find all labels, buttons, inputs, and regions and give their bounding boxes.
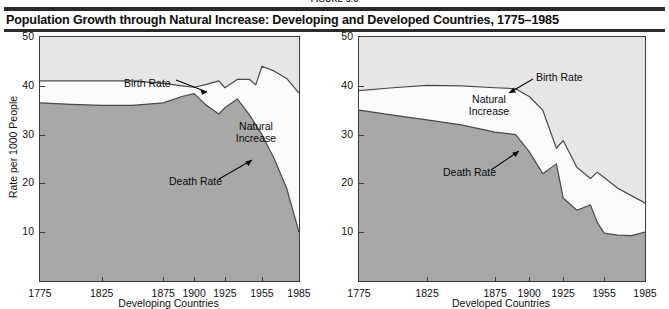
y-tick-label: 50 bbox=[8, 31, 34, 41]
x-tick-mark bbox=[102, 277, 103, 282]
figure-page: FIGURE 3.6 Population Growth through Nat… bbox=[0, 0, 669, 309]
natural-increase-line2: Increase bbox=[236, 132, 276, 144]
x-tick-mark bbox=[163, 277, 164, 282]
natural-increase-line1: Natural bbox=[239, 120, 273, 132]
plot-svg-developing bbox=[40, 37, 299, 281]
x-tick-mark bbox=[262, 277, 263, 282]
x-axis-title-developing: Developing Countries bbox=[39, 297, 298, 309]
x-tick-mark bbox=[563, 277, 564, 282]
y-tick-mark bbox=[40, 183, 45, 184]
y-tick-mark bbox=[40, 135, 45, 136]
chart-panel-developed: 1020304050 1775182518751900192519551985 … bbox=[333, 33, 669, 295]
annotation-birth-rate-developing: Birth Rate bbox=[124, 77, 171, 89]
y-tick-label: 50 bbox=[327, 31, 353, 41]
y-tick-mark bbox=[40, 232, 45, 233]
natural-increase-line1: Natural bbox=[472, 93, 506, 105]
annotation-natural-increase-developing: Natural Increase bbox=[224, 120, 288, 144]
x-tick-mark bbox=[529, 277, 530, 282]
annotation-birth-rate-developed: Birth Rate bbox=[536, 71, 583, 83]
annotation-death-rate-developed: Death Rate bbox=[443, 166, 496, 178]
title-rule-top bbox=[4, 7, 665, 11]
x-tick-mark bbox=[495, 277, 496, 282]
y-tick-mark bbox=[359, 232, 364, 233]
y-tick-label: 20 bbox=[327, 177, 353, 187]
y-tick-label: 10 bbox=[327, 226, 353, 236]
y-tick-mark bbox=[359, 135, 364, 136]
natural-increase-line2: Increase bbox=[469, 105, 509, 117]
page-title: Population Growth through Natural Increa… bbox=[6, 12, 663, 28]
annotation-natural-increase-developed: Natural Increase bbox=[458, 93, 520, 117]
y-tick-mark bbox=[40, 86, 45, 87]
y-tick-label: 10 bbox=[8, 226, 34, 236]
chart-panel-developing: 1020304050 1775182518751900192519551985 … bbox=[0, 33, 333, 295]
plot-area-developed bbox=[358, 36, 646, 282]
plot-area-developing bbox=[39, 36, 300, 282]
y-axis-title: Rate per 1000 People bbox=[7, 87, 19, 207]
y-tick-label: 30 bbox=[327, 129, 353, 139]
plot-svg-developed bbox=[359, 37, 645, 281]
annotation-death-rate-developing: Death Rate bbox=[169, 175, 222, 187]
x-axis-title-developed: Developed Countries bbox=[358, 297, 644, 309]
figure-number: FIGURE 3.6 bbox=[0, 0, 669, 2]
x-tick-mark bbox=[194, 277, 195, 282]
y-tick-mark bbox=[359, 183, 364, 184]
x-tick-mark bbox=[604, 277, 605, 282]
y-tick-mark bbox=[359, 86, 364, 87]
x-tick-mark bbox=[427, 277, 428, 282]
y-tick-label: 40 bbox=[327, 80, 353, 90]
x-tick-mark bbox=[225, 277, 226, 282]
